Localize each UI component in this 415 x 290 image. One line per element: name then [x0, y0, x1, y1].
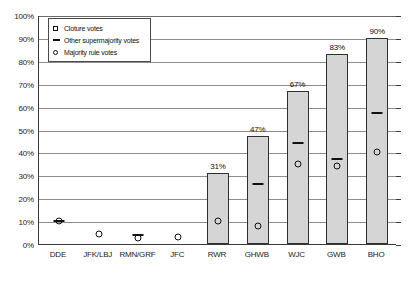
- bar-value-label: 47%: [250, 125, 265, 134]
- marker-circle: [294, 160, 301, 167]
- bar-group: 31%: [198, 16, 238, 244]
- x-axis-tick-label: BHO: [368, 250, 385, 259]
- legend-circle-icon: [53, 50, 64, 55]
- marker-circle: [55, 218, 62, 225]
- y-axis-tick-label: 50%: [0, 126, 34, 135]
- legend-dash-icon: [53, 39, 64, 41]
- bar-value-label: 90%: [369, 27, 384, 36]
- x-axis-tick-label: RWR: [208, 250, 226, 259]
- y-axis-tick-label: 40%: [0, 149, 34, 158]
- legend-item-cloture-votes: Cloture votes: [53, 22, 146, 34]
- x-axis-tick-label: GWB: [327, 250, 346, 259]
- bar-group: 47%: [238, 16, 278, 244]
- y-axis-tick-label: 80%: [0, 57, 34, 66]
- legend-label: Majority rule votes: [64, 49, 146, 56]
- marker-circle: [135, 235, 142, 242]
- marker-dash: [372, 112, 383, 114]
- bar-value-label: 31%: [210, 162, 225, 171]
- y-axis-tick-label: 10%: [0, 218, 34, 227]
- legend-square-icon: [53, 26, 64, 31]
- legend-label: Cloture votes: [64, 25, 146, 32]
- bar-group: [158, 16, 198, 244]
- marker-circle: [334, 163, 341, 170]
- x-axis-tick-label: DDE: [50, 250, 66, 259]
- y-axis-tick-label: 0%: [0, 241, 34, 250]
- chart-container: 0%10%20%30%40%50%60%70%80%90%100% 31%47%…: [0, 0, 415, 290]
- legend-label: Other supermajority votes: [64, 37, 146, 44]
- bar-group: 67%: [278, 16, 318, 244]
- x-axis-tick-label: WJC: [288, 250, 305, 259]
- marker-circle: [374, 149, 381, 156]
- chart-legend: Cloture votes Other supermajority votes …: [48, 18, 151, 62]
- y-axis-tick-label: 100%: [0, 12, 34, 21]
- axis-tick: [396, 245, 401, 246]
- legend-item-other-supermajority-votes: Other supermajority votes: [53, 34, 146, 46]
- bar: [326, 54, 348, 244]
- bar-group: 90%: [357, 16, 397, 244]
- x-axis-tick-label: GHWB: [245, 250, 269, 259]
- legend-item-majority-rule-votes: Majority rule votes: [53, 46, 146, 58]
- bar-group: 83%: [317, 16, 357, 244]
- y-axis-tick-label: 70%: [0, 80, 34, 89]
- y-axis-tick-label: 60%: [0, 103, 34, 112]
- marker-dash: [252, 183, 263, 185]
- bar-value-label: 67%: [290, 80, 305, 89]
- marker-dash: [292, 142, 303, 144]
- y-axis-tick-label: 20%: [0, 195, 34, 204]
- marker-circle: [214, 218, 221, 225]
- marker-circle: [254, 222, 261, 229]
- bar: [207, 173, 229, 244]
- marker-dash: [332, 158, 343, 160]
- bar-value-label: 83%: [330, 43, 345, 52]
- marker-circle: [95, 230, 102, 237]
- bar: [366, 38, 388, 244]
- x-axis-tick-label: JFK/LBJ: [83, 250, 112, 259]
- marker-circle: [175, 234, 182, 241]
- x-axis-tick-label: RMN/GRF: [119, 250, 155, 259]
- x-axis-tick-label: JFC: [170, 250, 184, 259]
- y-axis-tick-label: 90%: [0, 34, 34, 43]
- y-axis-tick-label: 30%: [0, 172, 34, 181]
